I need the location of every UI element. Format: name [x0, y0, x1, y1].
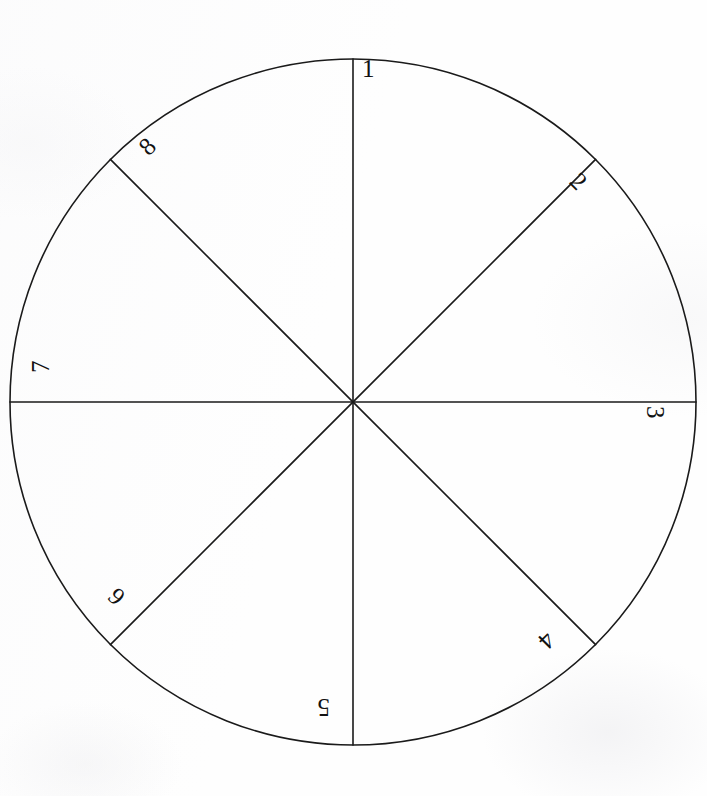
sector-circle-diagram — [0, 0, 707, 796]
sector-label-5: 5 — [318, 695, 331, 720]
radius-lines-group — [10, 59, 696, 745]
sector-label-3: 3 — [643, 406, 668, 419]
sector-label-7: 7 — [28, 361, 53, 374]
sector-label-1: 1 — [362, 56, 375, 81]
diagram-page: 1 2 3 4 5 6 7 8 — [0, 0, 707, 796]
